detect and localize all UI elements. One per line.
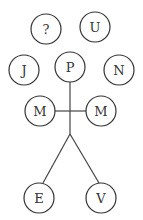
- node-label: J: [19, 63, 26, 78]
- node-j: J: [9, 55, 39, 85]
- node-label: U: [90, 20, 101, 35]
- node-label: M: [94, 104, 107, 119]
- node-question: ?: [31, 14, 61, 44]
- node-v-right-foot: V: [86, 183, 116, 213]
- node-e-left-foot: E: [24, 183, 54, 213]
- left-leg-line: [43, 134, 70, 183]
- node-label: E: [34, 191, 44, 206]
- node-n: N: [104, 55, 134, 85]
- right-leg-line: [70, 134, 99, 183]
- diagram-svg: ? U J P N M M E: [0, 0, 143, 220]
- node-u: U: [80, 12, 110, 42]
- node-m-left-hand: M: [25, 96, 55, 126]
- node-label: N: [113, 63, 124, 78]
- node-label: M: [33, 104, 46, 119]
- node-label: P: [66, 60, 75, 75]
- stick-figure-letter-diagram: ? U J P N M M E: [0, 0, 143, 220]
- node-p-head: P: [55, 52, 85, 82]
- node-label: ?: [43, 22, 50, 37]
- node-label: V: [95, 191, 106, 206]
- node-m-right-hand: M: [86, 96, 116, 126]
